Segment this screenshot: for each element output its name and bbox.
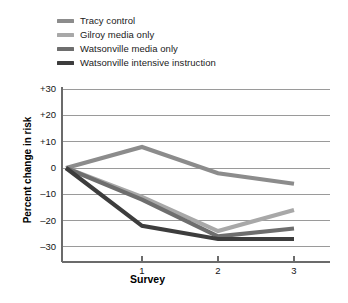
- y-axis-tick-label: +20: [22, 109, 56, 120]
- y-axis-tick-label: –10: [22, 188, 56, 199]
- y-axis-tick-label: +10: [22, 136, 56, 147]
- y-axis-tick-label: +30: [22, 83, 56, 94]
- x-axis-tick-label: 3: [284, 265, 304, 276]
- y-axis-tick-label: 0: [22, 162, 56, 173]
- plot-area: [0, 0, 348, 303]
- x-axis-tick-label: 2: [208, 265, 228, 276]
- y-axis-tick-label: –20: [22, 215, 56, 226]
- plot-svg: [0, 0, 348, 303]
- chart-figure: Tracy control Gilroy media only Watsonvi…: [0, 0, 348, 303]
- y-axis-tick-label: –30: [22, 241, 56, 252]
- x-axis-tick-label: 1: [132, 265, 152, 276]
